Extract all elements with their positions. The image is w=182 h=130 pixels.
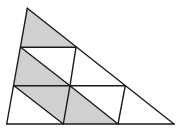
edge-line bbox=[70, 47, 76, 85]
triangle-figure bbox=[0, 0, 182, 130]
edge-line bbox=[118, 86, 125, 124]
shaded-triangle bbox=[21, 8, 76, 47]
triangle-diagram bbox=[0, 0, 182, 130]
